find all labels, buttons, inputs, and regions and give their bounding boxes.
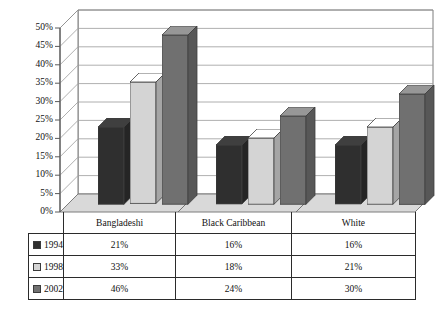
bar-1994-black-caribbean	[216, 136, 252, 204]
bar-front-face	[280, 116, 306, 204]
table-header-row: BangladeshiBlack CaribbeanWhite	[29, 212, 416, 234]
y-tick-label: 5%	[20, 189, 53, 199]
bar-front-face	[399, 94, 425, 204]
chart-figure: 0%5%10%15%20%25%30%35%40%45%50% Banglade…	[0, 0, 443, 322]
bar-2002-bangladeshi	[162, 26, 198, 204]
y-tick-label: 20%	[20, 133, 53, 143]
y-tick-label: 50%	[20, 23, 53, 33]
y-tick-label: 30%	[20, 97, 53, 107]
legend-label: 2002	[44, 284, 63, 294]
bar-2002-black-caribbean	[280, 107, 316, 204]
y-tick-label: 15%	[20, 152, 53, 162]
bar-front-face	[248, 138, 274, 204]
table-cell: 33%	[64, 256, 176, 278]
table-cell: 30%	[291, 278, 415, 300]
legend-row-1994: 1994	[29, 234, 64, 256]
bar-side-face	[306, 107, 315, 204]
bar-side-face	[425, 85, 434, 204]
table-corner-blank	[29, 212, 64, 234]
table-cell: 46%	[64, 278, 176, 300]
bar-1994-bangladeshi	[98, 118, 134, 204]
legend-row-1998: 1998	[29, 256, 64, 278]
bar-front-face	[130, 82, 156, 203]
bar-front-face	[216, 145, 242, 204]
bar-1994-white	[335, 136, 371, 204]
y-tick-label: 25%	[20, 115, 53, 125]
table-row: 199421%16%16%	[29, 234, 416, 256]
legend-swatch-icon	[33, 285, 41, 293]
y-tick-label: 45%	[20, 41, 53, 51]
table-cell: 18%	[176, 256, 292, 278]
table-row: 199833%18%21%	[29, 256, 416, 278]
table-cell: 16%	[176, 234, 292, 256]
legend-swatch-icon	[33, 263, 41, 271]
legend-row-2002: 2002	[29, 278, 64, 300]
table-cell: 21%	[291, 256, 415, 278]
table-column-header: Bangladeshi	[64, 212, 176, 234]
y-tick-label: 40%	[20, 60, 53, 70]
bar-side-face	[188, 26, 197, 204]
bar-1998-white	[367, 118, 403, 204]
bar-front-face	[98, 127, 124, 204]
bar-1998-black-caribbean	[248, 129, 284, 204]
y-axis-ticks	[55, 28, 60, 212]
legend-swatch-icon	[33, 241, 41, 249]
legend-label: 1994	[44, 240, 63, 250]
plot-area: 0%5%10%15%20%25%30%35%40%45%50%	[0, 0, 443, 230]
y-tick-label: 35%	[20, 78, 53, 88]
bar-2002-white	[399, 85, 435, 204]
bar-front-face	[162, 35, 188, 204]
table-row: 200246%24%30%	[29, 278, 416, 300]
table-column-header: White	[291, 212, 415, 234]
legend-label: 1998	[44, 262, 63, 272]
table-cell: 16%	[291, 234, 415, 256]
bar-front-face	[367, 127, 393, 204]
table-cell: 21%	[64, 234, 176, 256]
bar-front-face	[335, 145, 361, 204]
table-cell: 24%	[176, 278, 292, 300]
data-table: BangladeshiBlack CaribbeanWhite199421%16…	[28, 212, 416, 300]
bar-1998-bangladeshi	[130, 73, 166, 203]
table-column-header: Black Caribbean	[176, 212, 292, 234]
y-tick-label: 10%	[20, 170, 53, 180]
